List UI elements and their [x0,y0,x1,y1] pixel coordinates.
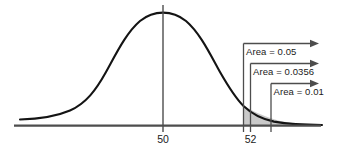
callout-area-00356-label: Area = 0.0356 [253,66,314,77]
callout-area-005-arrow-head [310,40,319,47]
x-tick-label-50: 50 [157,133,169,145]
normal-distribution-figure: Area = 0.05 Area = 0.0356 Area = 0.01 50… [0,0,337,159]
x-tick-label-52: 52 [245,133,257,145]
callout-area-001-label: Area = 0.01 [274,86,324,97]
callout-area-005-label: Area = 0.05 [246,46,296,57]
